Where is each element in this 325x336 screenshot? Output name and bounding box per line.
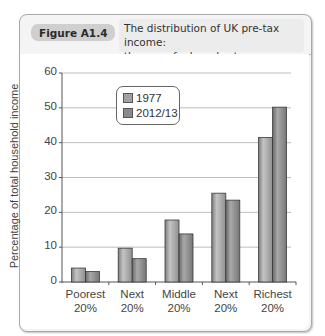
bar-1977-2 — [165, 220, 179, 282]
y-tick-label: 10 — [35, 239, 57, 251]
x-tick-label: Middle20% — [154, 287, 204, 315]
bar-1977-1 — [118, 248, 132, 282]
x-tick-label: Next20% — [201, 287, 251, 315]
bar-2012-13-4 — [273, 107, 287, 282]
y-tick-label: 60 — [35, 65, 57, 77]
x-tick-label: Richest20% — [248, 287, 298, 315]
legend-item-2012-13: 2012/13 — [123, 107, 178, 120]
bar-2012-13-3 — [226, 200, 240, 282]
legend-label-1977: 1977 — [136, 92, 162, 104]
bar-1977-0 — [71, 268, 85, 282]
legend-swatch-2012-13 — [123, 108, 133, 118]
bar-2012-13-1 — [132, 259, 146, 282]
y-tick-label: 40 — [35, 135, 57, 147]
bar-1977-4 — [259, 137, 273, 282]
bar-1977-3 — [212, 193, 226, 282]
x-tick-label: Poorest20% — [60, 287, 110, 315]
bar-2012-13-2 — [179, 234, 193, 282]
chart-legend: 1977 2012/13 — [116, 86, 180, 125]
bar-2012-13-0 — [85, 272, 99, 282]
y-tick-label: 20 — [35, 204, 57, 216]
y-tick-label: 30 — [35, 170, 57, 182]
legend-label-2012-13: 2012/13 — [136, 107, 178, 119]
legend-swatch-1977 — [123, 93, 133, 103]
x-tick-label: Next20% — [107, 287, 157, 315]
legend-item-1977: 1977 — [123, 92, 162, 105]
y-tick-label: 0 — [35, 274, 57, 286]
y-axis-label: Percentage of total household income — [8, 84, 20, 269]
y-tick-label: 50 — [35, 100, 57, 112]
